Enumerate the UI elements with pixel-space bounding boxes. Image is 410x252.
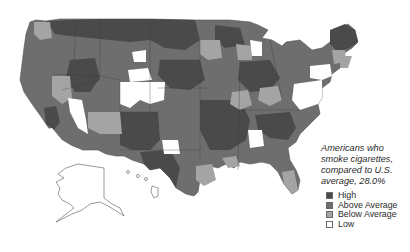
legend-item-low: Low: [326, 220, 398, 230]
legend-label: Low: [338, 220, 354, 229]
caption-line-1: Americans who: [321, 143, 410, 154]
caption-line-2: smoke cigarettes,: [321, 154, 410, 165]
map-legend: High Above Average Below Average Low: [326, 191, 398, 229]
hawaii: [127, 171, 159, 199]
alaska: [56, 164, 124, 222]
legend-item-below-average: Below Average: [326, 210, 398, 220]
legend-label: Below Average: [338, 210, 397, 219]
legend-swatch-above-average: [326, 202, 333, 209]
legend-swatch-below-average: [326, 211, 333, 218]
map-caption: Americans who smoke cigarettes, compared…: [321, 143, 410, 187]
legend-swatch-low: [326, 221, 333, 228]
caption-line-3: compared to U.S.: [321, 165, 410, 176]
legend-label: High: [338, 191, 356, 200]
legend-swatch-high: [326, 192, 333, 199]
caption-line-4: average, 28.0%: [321, 176, 410, 187]
